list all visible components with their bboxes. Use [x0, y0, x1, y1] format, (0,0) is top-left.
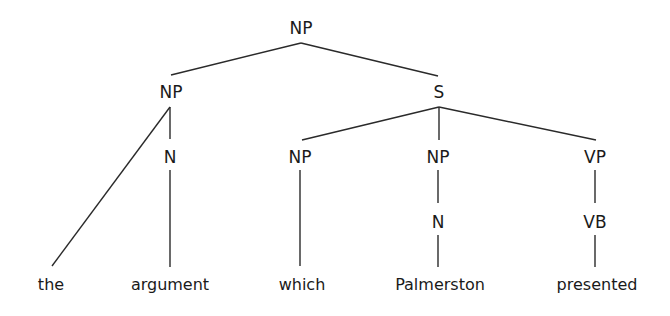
syntax-tree-edges — [0, 0, 670, 316]
node-root-np: NP — [290, 18, 313, 38]
edge-root_np-to-np_left — [171, 43, 301, 75]
node-n-left: N — [164, 147, 177, 167]
leaf-palmerston: Palmerston — [395, 275, 485, 295]
edge-s-to-vp — [439, 107, 596, 140]
node-np-which: NP — [289, 147, 312, 167]
node-n-palmerston: N — [432, 212, 445, 232]
leaf-presented: presented — [557, 275, 638, 295]
leaf-argument: argument — [131, 275, 209, 295]
node-vp: VP — [584, 147, 606, 167]
node-s: S — [434, 82, 445, 102]
leaf-the: the — [38, 275, 64, 295]
node-vb: VB — [583, 212, 606, 232]
node-np-palmerston: NP — [427, 147, 450, 167]
edge-np_left-to-the — [52, 107, 170, 266]
edge-root_np-to-s — [301, 43, 438, 76]
leaf-which: which — [279, 275, 326, 295]
node-np-left: NP — [160, 82, 183, 102]
edge-s-to-np_which — [302, 107, 439, 140]
